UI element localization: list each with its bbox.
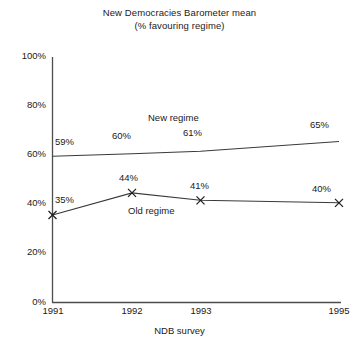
y-tick-label-60: 60%	[6, 149, 46, 159]
series-label-old-regime: Old regime	[128, 206, 174, 216]
y-tick-label-40: 40%	[6, 198, 46, 208]
x-tick-label-1992: 1992	[112, 306, 152, 316]
x-tick-label-1991: 1991	[33, 306, 73, 316]
data-label-new-regime-1991: 59%	[55, 137, 74, 147]
y-tick-label-100: 100%	[6, 51, 46, 61]
data-label-old-regime-1993: 41%	[190, 181, 209, 191]
series-line-old-regime	[53, 193, 340, 215]
series-line-new-regime	[53, 142, 340, 157]
data-label-old-regime-1992: 44%	[119, 173, 138, 183]
data-label-new-regime-1995: 65%	[310, 120, 329, 130]
y-tick-label-80: 80%	[6, 100, 46, 110]
x-axis-title: NDB survey	[0, 325, 359, 336]
y-tick-label-20: 20%	[6, 247, 46, 257]
x-tick-label-1995: 1995	[319, 306, 359, 316]
plot-area	[0, 0, 359, 347]
chart-screenshot: New Democracies Barometer mean (% favour…	[0, 0, 359, 347]
series-label-new-regime: New regime	[148, 113, 199, 123]
data-label-new-regime-1992: 60%	[112, 131, 131, 141]
data-label-old-regime-1995: 40%	[312, 184, 331, 194]
data-label-new-regime-1993: 61%	[183, 128, 202, 138]
x-tick-label-1993: 1993	[181, 306, 221, 316]
data-label-old-regime-1991: 35%	[55, 195, 74, 205]
